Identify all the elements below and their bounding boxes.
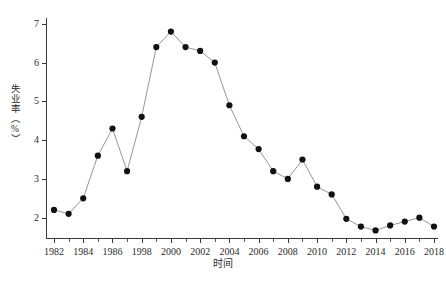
x-tick-label: 2008 <box>278 246 298 257</box>
x-tick-label: 2002 <box>190 246 210 257</box>
unemployment-rate-line-chart: 失业率（%） 234567 19821984198619982000200220… <box>0 0 446 288</box>
y-tick-label: 7 <box>34 19 39 29</box>
data-point <box>358 223 364 229</box>
x-tick-mark <box>376 239 377 243</box>
x-tick-mark <box>200 239 201 243</box>
data-point <box>329 191 335 197</box>
data-point <box>256 146 262 152</box>
data-point <box>285 176 291 182</box>
data-point <box>197 48 203 54</box>
x-minor-tick-mark <box>127 239 128 242</box>
y-tick-label: 4 <box>34 135 39 145</box>
data-point <box>51 207 57 213</box>
x-tick-mark <box>259 239 260 243</box>
x-minor-tick-mark <box>361 239 362 242</box>
data-point <box>124 168 130 174</box>
x-tick-label: 2018 <box>424 246 444 257</box>
data-point <box>387 222 393 228</box>
data-point <box>241 133 247 139</box>
data-series-layer <box>46 18 438 239</box>
data-point <box>270 168 276 174</box>
data-point <box>372 227 378 233</box>
data-point <box>343 216 349 222</box>
data-point <box>109 125 115 131</box>
x-tick-mark <box>83 239 84 243</box>
y-tick-label: 5 <box>34 96 39 106</box>
series-markers <box>51 28 437 233</box>
data-point <box>416 215 422 221</box>
x-tick-mark <box>288 239 289 243</box>
x-tick-label: 2004 <box>219 246 239 257</box>
figure-caption <box>0 278 446 288</box>
x-tick-mark <box>346 239 347 243</box>
x-tick-label: 1998 <box>132 246 152 257</box>
x-tick-mark <box>171 239 172 243</box>
x-tick-label: 2016 <box>395 246 415 257</box>
x-minor-tick-mark <box>273 239 274 242</box>
data-point <box>212 59 218 65</box>
x-tick-label: 2014 <box>366 246 386 257</box>
data-point <box>153 44 159 50</box>
plot-area: 234567 198219841986199820002002200420062… <box>46 18 438 239</box>
x-minor-tick-mark <box>98 239 99 242</box>
data-point <box>80 195 86 201</box>
x-tick-mark <box>229 239 230 243</box>
x-tick-mark <box>405 239 406 243</box>
y-tick-label: 3 <box>34 174 39 184</box>
data-point <box>314 184 320 190</box>
x-minor-tick-mark <box>419 239 420 242</box>
x-tick-label: 1982 <box>44 246 64 257</box>
data-point <box>95 153 101 159</box>
x-tick-mark <box>54 239 55 243</box>
x-minor-tick-mark <box>215 239 216 242</box>
data-point <box>139 114 145 120</box>
x-tick-label: 2006 <box>249 246 269 257</box>
x-minor-tick-mark <box>390 239 391 242</box>
data-point <box>226 102 232 108</box>
data-point <box>168 28 174 34</box>
x-minor-tick-mark <box>332 239 333 242</box>
data-point <box>402 218 408 224</box>
x-tick-label: 1986 <box>102 246 122 257</box>
x-tick-label: 2012 <box>336 246 356 257</box>
x-minor-tick-mark <box>156 239 157 242</box>
y-tick-label: 2 <box>34 213 39 223</box>
data-point <box>66 211 72 217</box>
y-axis-title: 失业率（%） <box>4 84 20 144</box>
x-minor-tick-mark <box>302 239 303 242</box>
x-tick-mark <box>112 239 113 243</box>
x-tick-label: 2000 <box>161 246 181 257</box>
data-point <box>182 44 188 50</box>
x-tick-mark <box>434 239 435 243</box>
x-minor-tick-mark <box>244 239 245 242</box>
x-minor-tick-mark <box>186 239 187 242</box>
x-axis-title: 时间 <box>0 258 446 269</box>
data-point <box>431 223 437 229</box>
data-point <box>299 156 305 162</box>
x-tick-label: 2010 <box>307 246 327 257</box>
x-tick-label: 1984 <box>73 246 93 257</box>
x-tick-mark <box>142 239 143 243</box>
x-minor-tick-mark <box>69 239 70 242</box>
y-tick-label: 6 <box>34 58 39 68</box>
x-tick-mark <box>317 239 318 243</box>
